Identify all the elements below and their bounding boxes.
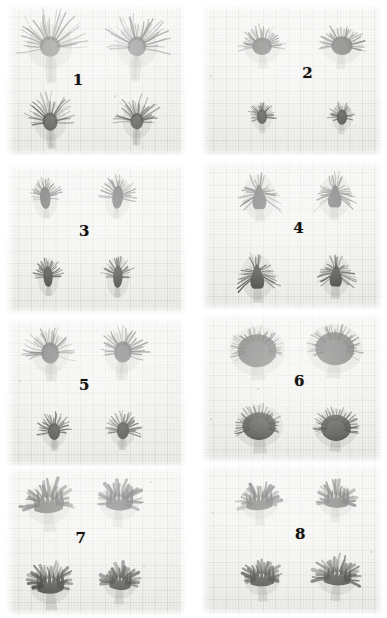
specimen-image	[6, 466, 92, 538]
specimen-panel-2: 2	[201, 4, 383, 156]
specimen-image	[10, 318, 90, 388]
specimen-plate: 12345678	[0, 0, 387, 618]
panel-number-label: 7	[75, 531, 85, 546]
specimen-image	[304, 12, 381, 75]
panel-number-label: 5	[79, 377, 89, 392]
specimen-image	[305, 241, 367, 303]
specimen-image	[24, 247, 73, 301]
specimen-panel-6: 6	[201, 313, 383, 463]
specimen-image	[92, 244, 144, 301]
specimen-image	[12, 84, 88, 156]
panel-number-label: 1	[73, 73, 83, 88]
specimen-image	[297, 395, 374, 457]
specimen-image	[227, 549, 296, 608]
panel-number-label: 8	[295, 527, 305, 542]
specimen-image	[95, 402, 151, 457]
specimen-image	[87, 164, 148, 224]
specimen-panel-7: 7	[6, 466, 186, 616]
specimen-image	[87, 553, 154, 612]
specimen-image	[301, 471, 371, 530]
specimen-panel-5: 5	[6, 318, 186, 468]
specimen-image	[223, 240, 291, 306]
specimen-image	[223, 471, 296, 532]
specimen-image	[301, 161, 368, 225]
panel-number-label: 3	[79, 223, 89, 238]
specimen-image	[17, 165, 73, 223]
specimen-panel-8: 8	[201, 463, 383, 615]
specimen-panel-4: 4	[201, 160, 383, 310]
specimen-image	[297, 544, 377, 609]
panel-number-label: 2	[302, 66, 312, 81]
specimen-image	[226, 15, 298, 74]
specimen-image	[319, 93, 366, 141]
specimen-image	[10, 550, 89, 616]
specimen-image	[91, 4, 183, 87]
specimen-image	[83, 318, 163, 386]
panel-number-label: 6	[294, 373, 304, 388]
specimen-image	[103, 87, 172, 152]
specimen-image	[26, 403, 81, 457]
specimen-image	[225, 160, 293, 225]
specimen-panel-1: 1	[6, 4, 186, 156]
specimen-image	[240, 94, 285, 141]
specimen-image	[218, 391, 301, 458]
panel-number-label: 4	[293, 221, 303, 236]
dust-speck	[212, 512, 214, 514]
specimen-image	[6, 4, 100, 89]
specimen-image	[81, 468, 158, 533]
specimen-panel-3: 3	[6, 164, 186, 314]
